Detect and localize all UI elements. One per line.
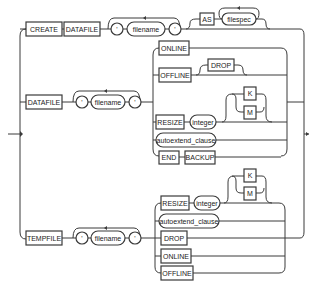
tempfile-filename-text: filename [95, 235, 122, 242]
datafile-offline-text: OFFLINE [160, 72, 190, 79]
tempfile-online-text: ONLINE [163, 253, 189, 260]
datafile-filename-text: filename [95, 99, 122, 106]
datafile-end-text: END [162, 154, 177, 161]
datafile-online-text: ONLINE [161, 45, 187, 52]
filespec-text: filespec [227, 16, 251, 24]
datafile-m-text: M [247, 109, 253, 116]
railroad-diagram: CREATE DATAFILE ' filename ' AS filespec… [0, 0, 312, 287]
quote-open-text: ' [81, 235, 82, 242]
quote-close-text: ' [174, 26, 175, 33]
tempfile-integer-text: integer [196, 200, 218, 208]
right-rail [300, 29, 304, 134]
tempfile-offline-text: OFFLINE [162, 270, 192, 277]
datafile-integer-text: integer [192, 119, 214, 127]
datafile-resize-text: RESIZE [157, 119, 183, 126]
quote-close-text: ' [134, 235, 135, 242]
quote-close-text: ' [134, 99, 135, 106]
create-keyword: CREATE [30, 26, 58, 33]
tempfile-autoextend-text: autoextend_clause [160, 218, 219, 226]
exit-arrow-icon [306, 132, 309, 136]
datafile-keyword: DATAFILE [28, 99, 61, 106]
tempfile-m-text: M [247, 190, 253, 197]
quote-open-text: ' [116, 26, 117, 33]
create-filename-text: filename [133, 26, 160, 33]
create-datafile-keyword: DATAFILE [66, 26, 99, 33]
datafile-autoextend-text: autoextend_clause [157, 137, 216, 145]
tempfile-keyword: TEMPFILE [27, 235, 62, 242]
as-keyword: AS [202, 16, 212, 23]
datafile-backup-text: BACKUP [186, 154, 215, 161]
tempfile-k-text: K [248, 172, 253, 179]
datafile-drop-text: DROP [211, 62, 232, 69]
tempfile-drop-text: DROP [164, 235, 185, 242]
quote-open-text: ' [81, 99, 82, 106]
datafile-k-text: K [248, 90, 253, 97]
tempfile-resize-text: RESIZE [162, 200, 188, 207]
